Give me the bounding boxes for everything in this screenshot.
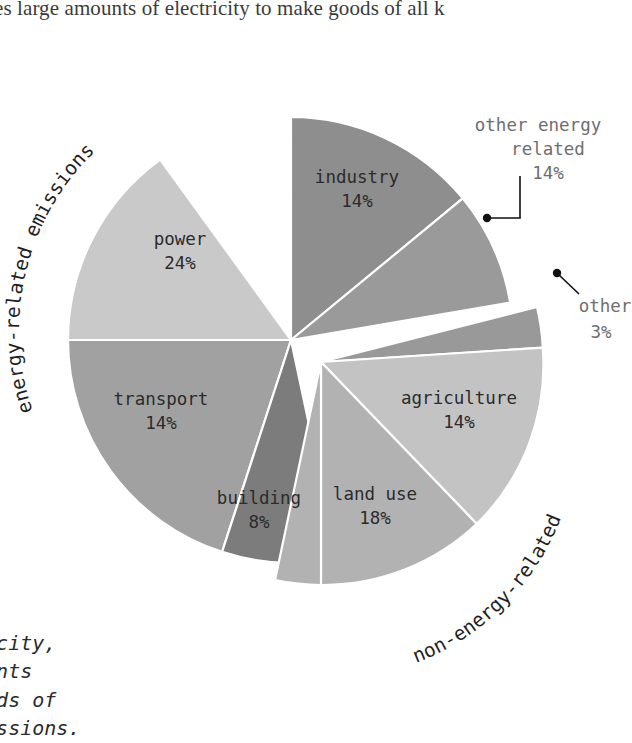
pie-chart: industry 14% power 24% transport 14% bui… [0, 0, 632, 743]
label-agriculture-pct: 14% [443, 412, 475, 432]
label-industry-pct: 14% [341, 191, 373, 211]
chart-canvas: es large amounts of electricity to make … [0, 0, 632, 743]
leader-other-energy-related [483, 176, 520, 222]
label-other-pct: 3% [590, 322, 612, 342]
label-other-name: other [579, 296, 632, 316]
label-other-energy-line2: related [511, 139, 585, 159]
label-agriculture-name: agriculture [401, 388, 517, 408]
label-building-pct: 8% [248, 512, 270, 532]
slice-power[interactable] [68, 160, 291, 340]
label-land-use-pct: 18% [359, 508, 391, 528]
label-power-name: power [154, 229, 207, 249]
label-transport-pct: 14% [145, 413, 177, 433]
label-power-pct: 24% [164, 253, 196, 273]
label-other-energy-line1: other energy [475, 115, 601, 135]
leader-other [553, 269, 579, 294]
label-land-use-name: land use [333, 484, 417, 504]
label-transport-name: transport [114, 389, 209, 409]
label-building-name: building [217, 488, 301, 508]
group-non-energy-related [275, 307, 543, 585]
label-other-energy-pct: 14% [532, 163, 564, 183]
outside-labels: other energy related 14% other 3% [475, 115, 632, 342]
label-industry-name: industry [315, 167, 399, 187]
